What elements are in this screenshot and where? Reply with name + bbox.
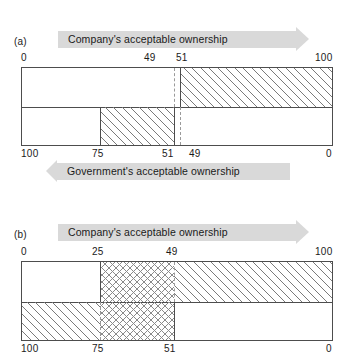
ownership-chart-a xyxy=(21,67,333,146)
tick-bottom-b-75: 75 xyxy=(92,343,104,354)
company-banner-label-a: Company's acceptable ownership xyxy=(68,31,228,48)
panel-a-label: (a) xyxy=(14,36,27,47)
chart-b-bottom-row xyxy=(22,302,332,340)
tick-top-a-49: 49 xyxy=(144,52,156,63)
tick-bottom-a-0: 0 xyxy=(326,148,332,159)
tick-top-b-0: 0 xyxy=(21,246,27,257)
tick-top-b-25: 25 xyxy=(92,246,104,257)
arrow-right-icon-a xyxy=(296,27,309,51)
government-acceptable-ownership-banner-a: Government's acceptable ownership xyxy=(57,163,290,180)
government-boundary-line-b xyxy=(174,302,175,340)
tick-top-a-0: 0 xyxy=(21,52,27,63)
tick-bottom-a-51: 51 xyxy=(162,148,174,159)
company-dashed-line-a xyxy=(174,68,175,107)
chart-a-bottom-row xyxy=(22,107,332,145)
company-dashed-line-b xyxy=(174,262,175,302)
ownership-chart-b xyxy=(21,261,333,341)
tick-bottom-b-51: 51 xyxy=(164,343,176,354)
tick-top-b-100: 100 xyxy=(315,246,333,257)
government-boundary-line-left-a xyxy=(100,107,101,145)
overlap-crosshatched-region-b-top xyxy=(100,262,174,302)
government-banner-label-a: Government's acceptable ownership xyxy=(67,163,240,180)
company-hatched-region-a xyxy=(180,68,332,107)
government-dashed-line-a xyxy=(180,107,181,145)
panel-b-label: (b) xyxy=(14,229,27,240)
tick-bottom-a-49: 49 xyxy=(189,148,201,159)
arrow-right-icon-b xyxy=(296,220,309,244)
company-boundary-line-b xyxy=(100,262,101,302)
company-banner-label-b: Company's acceptable ownership xyxy=(68,224,228,241)
chart-a-top-row xyxy=(22,68,332,107)
government-hatched-region-b xyxy=(22,302,100,340)
company-boundary-line-a xyxy=(180,68,181,107)
overlap-crosshatched-region-b-bottom xyxy=(100,302,174,340)
company-acceptable-ownership-banner-a: Company's acceptable ownership xyxy=(58,31,296,48)
tick-bottom-a-100: 100 xyxy=(21,148,39,159)
arrow-left-icon-a xyxy=(46,160,57,182)
chart-b-top-row xyxy=(22,262,332,302)
tick-bottom-a-75: 75 xyxy=(92,148,104,159)
tick-bottom-b-100: 100 xyxy=(21,343,39,354)
government-hatched-region-a xyxy=(100,107,174,145)
tick-top-a-51: 51 xyxy=(176,52,188,63)
company-acceptable-ownership-banner-b: Company's acceptable ownership xyxy=(58,224,296,241)
tick-top-b-49: 49 xyxy=(166,246,178,257)
government-dashed-line-b xyxy=(100,302,101,340)
tick-top-a-100: 100 xyxy=(315,52,333,63)
tick-bottom-b-0: 0 xyxy=(326,343,332,354)
government-boundary-line-right-a xyxy=(174,107,175,145)
company-hatched-region-b xyxy=(174,262,332,302)
